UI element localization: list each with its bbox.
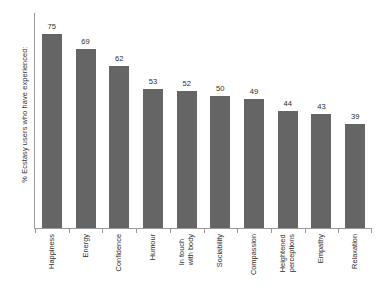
bar-group: 44 — [271, 13, 305, 228]
x-axis-category-label: Empathy — [305, 234, 339, 298]
x-axis-category-label-line: Energy — [81, 234, 90, 257]
x-axis-category-label: Happiness — [35, 234, 69, 298]
x-axis-category-label: Compassion — [237, 234, 271, 298]
bar — [177, 91, 197, 228]
x-axis-category-label-line: Sociability — [216, 234, 225, 267]
bar — [244, 99, 264, 228]
x-axis-tick — [204, 229, 205, 233]
x-axis-category-label: Heightenedperceptions — [271, 234, 305, 298]
bar — [278, 111, 298, 228]
bar — [76, 49, 96, 228]
x-axis-tick — [69, 229, 70, 233]
bar-value-label: 53 — [149, 78, 157, 86]
x-axis-category-label: Humour — [136, 234, 170, 298]
bar-group: 53 — [136, 13, 170, 228]
plot-area: 75696253525049444339 — [35, 13, 372, 228]
bar-group: 49 — [237, 13, 271, 228]
bar-chart-figure: % Ecstasy users who have experienced: 75… — [0, 0, 376, 298]
x-axis-category-label-line: Empathy — [317, 234, 326, 263]
x-axis-category-label: In touchwith body — [170, 234, 204, 298]
bar-value-label: 50 — [216, 85, 224, 93]
x-axis-category-label: Sociability — [204, 234, 238, 298]
bar-value-label: 43 — [317, 103, 325, 111]
bar-value-label: 39 — [351, 113, 359, 121]
y-axis-title: % Ecstasy users who have experienced: — [14, 0, 34, 228]
x-axis-tick — [237, 229, 238, 233]
bar-group: 62 — [102, 13, 136, 228]
x-axis-label-row: HappinessEnergyConfidenceHumourIn touchw… — [35, 234, 372, 298]
x-axis-category-label-line: Happiness — [48, 234, 57, 269]
bar-value-label: 62 — [115, 55, 123, 63]
bar-group: 75 — [35, 13, 69, 228]
bar — [311, 114, 331, 228]
x-axis-tick — [305, 229, 306, 233]
x-axis-category-label-line: with body — [187, 234, 196, 265]
x-axis-tick — [102, 229, 103, 233]
y-axis-title-text: % Ecstasy users who have experienced: — [20, 46, 29, 182]
x-axis-tick — [170, 229, 171, 233]
x-axis-category-label: Confidence — [102, 234, 136, 298]
bar-group: 69 — [69, 13, 103, 228]
bar-group: 43 — [305, 13, 339, 228]
x-axis-category-label-line: perceptions — [288, 234, 297, 272]
x-axis-tick — [35, 229, 36, 233]
bar — [42, 34, 62, 228]
x-axis-tick — [271, 229, 272, 233]
bar-group: 39 — [338, 13, 372, 228]
bar-value-label: 52 — [182, 80, 190, 88]
bar — [345, 124, 365, 228]
bar — [210, 96, 230, 228]
bar-group: 52 — [170, 13, 204, 228]
x-axis-category-label-line: Humour — [149, 234, 158, 260]
x-axis-tick — [371, 229, 372, 233]
x-axis-tick — [338, 229, 339, 233]
x-axis-category-label-line: Compassion — [250, 234, 259, 275]
bar-value-label: 44 — [284, 100, 292, 108]
x-axis-tick — [136, 229, 137, 233]
x-axis-category-label-line: Relaxation — [351, 234, 360, 269]
x-axis-category-label: Relaxation — [338, 234, 372, 298]
bar-value-label: 49 — [250, 88, 258, 96]
x-axis-category-label: Energy — [69, 234, 103, 298]
bar — [143, 89, 163, 228]
bar-group: 50 — [204, 13, 238, 228]
x-axis-category-label-line: In touch — [178, 234, 187, 265]
x-axis-category-label-line: Confidence — [115, 234, 124, 271]
bar-value-label: 69 — [81, 38, 89, 46]
bar — [109, 66, 129, 228]
x-axis-tick-row — [35, 229, 372, 233]
bar-value-label: 75 — [48, 23, 56, 31]
